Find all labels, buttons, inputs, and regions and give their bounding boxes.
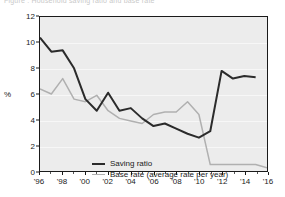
- x-tick-mark-minor: [73, 172, 74, 174]
- x-tick-label: '12: [217, 177, 227, 186]
- legend-label-saving-ratio: Saving ratio: [110, 158, 152, 169]
- x-tick-mark-minor: [119, 172, 120, 174]
- legend-swatch-saving-ratio: [92, 163, 105, 165]
- x-tick-label: '02: [102, 177, 112, 186]
- x-axis: '96'98'00'02'04'06'08'10'12'14'16: [39, 172, 268, 197]
- chart-figure: Figure : Household saving ratio and base…: [0, 0, 285, 197]
- x-tick-mark: [222, 172, 223, 175]
- y-axis: 024681012%: [0, 0, 39, 197]
- series-layer: [40, 17, 267, 171]
- x-tick-mark: [245, 172, 246, 175]
- x-tick-mark: [268, 172, 269, 175]
- x-tick-mark-minor: [96, 172, 97, 174]
- y-tick-label: 4: [31, 116, 35, 125]
- y-tick-label: 6: [31, 90, 35, 99]
- x-tick-label: '14: [240, 177, 250, 186]
- line-saving-ratio: [40, 38, 256, 138]
- x-tick-label: '04: [125, 177, 135, 186]
- x-tick-label: '08: [171, 177, 181, 186]
- x-tick-mark-minor: [188, 172, 189, 174]
- y-tick-label: 10: [26, 38, 35, 47]
- y-tick-label: 2: [31, 142, 35, 151]
- y-tick-label: 0: [31, 168, 35, 177]
- x-tick-mark: [62, 172, 63, 175]
- x-tick-label: '98: [57, 177, 67, 186]
- x-tick-mark-minor: [142, 172, 143, 174]
- x-tick-mark: [131, 172, 132, 175]
- x-tick-mark-minor: [234, 172, 235, 174]
- x-tick-mark: [199, 172, 200, 175]
- x-tick-mark: [176, 172, 177, 175]
- line-base-rate: [40, 79, 267, 168]
- x-tick-mark-minor: [257, 172, 258, 174]
- x-tick-mark-minor: [165, 172, 166, 174]
- y-tick-label: 8: [31, 64, 35, 73]
- x-tick-label: '06: [148, 177, 158, 186]
- x-tick-mark-minor: [50, 172, 51, 174]
- clipped-figure-title: Figure : Household saving ratio and base…: [0, 0, 285, 7]
- x-tick-mark: [154, 172, 155, 175]
- y-tick-label: 12: [26, 12, 35, 21]
- x-tick-label: '16: [263, 177, 273, 186]
- x-tick-mark-minor: [211, 172, 212, 174]
- x-tick-label: '96: [34, 177, 44, 186]
- x-tick-mark: [108, 172, 109, 175]
- x-tick-label: '10: [194, 177, 204, 186]
- y-axis-title: %: [4, 90, 11, 99]
- x-tick-label: '00: [80, 177, 90, 186]
- x-tick-mark: [39, 172, 40, 175]
- legend-item-saving-ratio: Saving ratio: [92, 158, 228, 169]
- plot-area: Saving ratio Base rate (average rate per…: [39, 16, 268, 172]
- x-tick-mark: [85, 172, 86, 175]
